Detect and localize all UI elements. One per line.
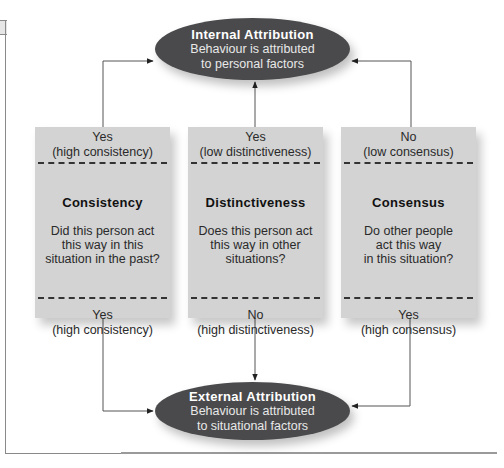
internal-attribution-desc-2: to personal factors (201, 57, 304, 72)
internal-attribution-title: Internal Attribution (191, 27, 314, 42)
question-line: act this way (376, 238, 441, 252)
question-line: situation in the past? (45, 252, 160, 266)
distinctiveness-question: Does this person act this way in other s… (188, 224, 323, 266)
consensus-top-answer: No (low consensus) (341, 130, 476, 160)
distinctiveness-box: Yes (low distinctiveness) Distinctivenes… (188, 127, 323, 318)
answer-detail: (high distinctiveness) (197, 323, 314, 338)
external-attribution-node: External Attribution Behaviour is attrib… (155, 382, 350, 440)
consensus-heading: Consensus (341, 195, 476, 210)
external-attribution-desc-2: to situational factors (197, 419, 308, 434)
consistency-bottom-answer: Yes (high consistency) (35, 308, 170, 338)
answer-detail: (high consistency) (52, 323, 153, 338)
consistency-box: Yes (high consistency) Consistency Did t… (35, 127, 170, 318)
consensus-bottom-answer: Yes (high consensus) (341, 308, 476, 338)
distinctiveness-heading: Distinctiveness (188, 195, 323, 210)
dashed-divider (344, 297, 473, 299)
dashed-divider (38, 162, 167, 164)
consensus-box: No (low consensus) Consensus Do other pe… (341, 127, 476, 318)
consistency-heading: Consistency (35, 195, 170, 210)
answer-label: Yes (92, 130, 112, 145)
dashed-divider (191, 297, 320, 299)
question-line: Did this person act (51, 224, 155, 238)
answer-label: No (248, 308, 264, 323)
dashed-divider (344, 162, 473, 164)
question-line: this way in other (210, 238, 300, 252)
answer-detail: (low distinctiveness) (200, 145, 312, 160)
consistency-top-answer: Yes (high consistency) (35, 130, 170, 160)
external-attribution-title: External Attribution (189, 389, 316, 404)
answer-detail: (high consistency) (52, 145, 153, 160)
internal-attribution-node: Internal Attribution Behaviour is attrib… (155, 18, 350, 80)
distinctiveness-bottom-answer: No (high distinctiveness) (188, 308, 323, 338)
question-line: this way in this (62, 238, 143, 252)
dashed-divider (191, 162, 320, 164)
answer-label: Yes (92, 308, 112, 323)
internal-attribution-desc-1: Behaviour is attributed (190, 42, 314, 57)
question-line: situations? (226, 252, 286, 266)
consensus-question: Do other people act this way in this sit… (341, 224, 476, 266)
answer-label: Yes (245, 130, 265, 145)
question-line: Does this person act (199, 224, 313, 238)
external-attribution-desc-1: Behaviour is attributed (190, 404, 314, 419)
distinctiveness-top-answer: Yes (low distinctiveness) (188, 130, 323, 160)
answer-detail: (high consensus) (361, 323, 456, 338)
answer-detail: (low consensus) (363, 145, 453, 160)
answer-label: Yes (398, 308, 418, 323)
consistency-question: Did this person act this way in this sit… (35, 224, 170, 266)
answer-label: No (401, 130, 417, 145)
question-line: in this situation? (364, 252, 454, 266)
question-line: Do other people (364, 224, 453, 238)
dashed-divider (38, 297, 167, 299)
